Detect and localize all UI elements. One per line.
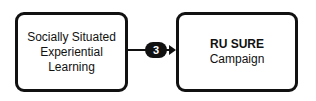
node-ru-sure-campaign: RU SURE Campaign bbox=[176, 12, 298, 92]
arrowhead-icon bbox=[169, 45, 176, 55]
node-right-subtitle: Campaign bbox=[210, 52, 265, 67]
node-left-line-3: Learning bbox=[48, 60, 95, 75]
node-left-line-2: Experiential bbox=[40, 45, 103, 60]
node-right-title: RU SURE bbox=[210, 37, 264, 52]
node-socially-situated-experiential-learning: Socially Situated Experiential Learning bbox=[15, 12, 128, 92]
connector-line bbox=[128, 49, 146, 51]
step-number-badge: 3 bbox=[145, 42, 167, 58]
node-left-line-1: Socially Situated bbox=[27, 30, 116, 45]
